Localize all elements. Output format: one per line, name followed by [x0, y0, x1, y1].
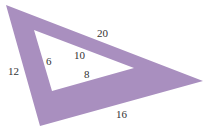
label-inner-hyp: 10	[74, 50, 85, 61]
triangle-frame-shape	[0, 0, 207, 126]
label-outer-left: 12	[8, 66, 19, 77]
diagram-canvas: 20 16 12 10 8 6	[0, 0, 207, 126]
label-inner-left: 6	[46, 56, 52, 67]
label-outer-bottom: 16	[116, 109, 127, 120]
label-inner-bottom: 8	[84, 69, 90, 80]
label-outer-top: 20	[97, 28, 108, 39]
